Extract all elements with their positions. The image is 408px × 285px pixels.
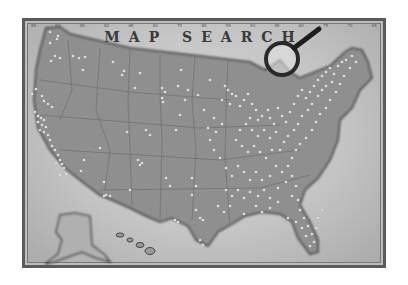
alaska-shape	[45, 213, 110, 264]
us-map	[0, 0, 408, 285]
hawaii-shape	[116, 233, 155, 255]
magnifying-glass-icon	[257, 24, 343, 84]
